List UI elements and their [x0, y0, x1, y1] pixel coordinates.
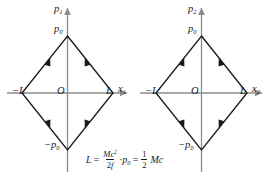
left-panel-arrow-lower-right	[85, 119, 91, 128]
caption-p-symbol: p0	[122, 155, 130, 165]
right-panel-bottom-vertex-label: −p0	[178, 140, 194, 151]
right-panel-right-vertex-label: L	[240, 86, 246, 97]
right-panel-arrow-lower-right	[219, 119, 225, 128]
caption-equals-1: =	[93, 155, 100, 165]
left-panel-arrow-upper-left	[45, 58, 51, 67]
right-panel-arrow-upper-left	[179, 58, 185, 67]
right-panel-arrow-lower-left	[179, 119, 185, 128]
caption-tail-mc: Mc	[150, 155, 163, 165]
left-panel-right-vertex-label: L	[106, 86, 112, 97]
left-panel-x-axis-label: x1	[118, 84, 126, 95]
caption-fraction-numerator: Mc2	[102, 150, 118, 159]
right-panel-y-axis-label: p2	[188, 4, 197, 15]
left-panel-arrow-lower-left	[45, 119, 51, 128]
caption-fraction-mc2-over-2f: Mc2 2f	[102, 150, 118, 169]
right-panel-origin-label: O	[191, 86, 199, 97]
caption-fraction-one-half: 1 2	[141, 150, 147, 169]
caption-fraction-denominator: 2f	[106, 159, 115, 169]
caption-formula: L = Mc2 2f · p0 = 1 2 Mc	[86, 150, 163, 169]
left-panel-left-vertex-label: −L	[12, 86, 25, 97]
right-panel-arrow-upper-right	[219, 58, 225, 67]
left-panel-arrow-upper-right	[85, 58, 91, 67]
left-panel-top-vertex-label: p0	[54, 24, 63, 35]
left-panel-bottom-vertex-label: −p0	[44, 140, 60, 151]
caption-half-denominator: 2	[141, 159, 147, 169]
right-panel-left-vertex-label: −L	[145, 86, 158, 97]
caption-equals-2: =	[132, 155, 139, 165]
caption-lhs: L	[86, 155, 92, 165]
left-panel-origin-label: O	[57, 86, 65, 97]
right-panel-top-vertex-label: p0	[188, 24, 197, 35]
caption-half-numerator: 1	[141, 150, 147, 159]
right-panel-x-axis-label: x2	[252, 84, 260, 95]
left-panel-y-axis-label: p1	[54, 4, 63, 15]
